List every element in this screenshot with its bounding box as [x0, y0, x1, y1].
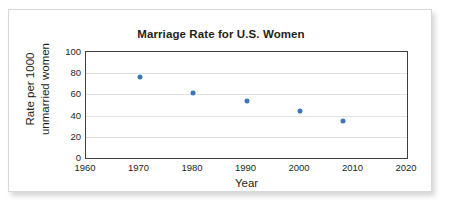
y-axis-title-line-2: unmarried women [38, 43, 53, 135]
figure-frame: Marriage Rate for U.S. Women Rate per 10… [8, 9, 432, 192]
x-tick-label: 1970 [119, 162, 159, 173]
x-axis-tick-labels: 1960197019801990200020102020 [85, 162, 408, 176]
data-point [340, 118, 345, 123]
gridline [86, 116, 407, 117]
x-axis-title: Year [85, 177, 408, 189]
y-tick-label: 80 [55, 67, 81, 78]
y-axis-tick-labels: 020406080100 [53, 51, 81, 159]
x-tick-label: 2010 [333, 162, 373, 173]
data-point [298, 109, 303, 114]
y-tick-label: 20 [55, 130, 81, 141]
chart-title: Marriage Rate for U.S. Women [9, 28, 433, 40]
x-tick-label: 1990 [226, 162, 266, 173]
y-tick-label: 40 [55, 109, 81, 120]
data-point [244, 98, 249, 103]
gridline [86, 94, 407, 95]
x-tick-label: 1960 [65, 162, 105, 173]
y-axis-title: Rate per 1000 unmarried women [21, 14, 55, 164]
data-point [137, 75, 142, 80]
data-point [191, 91, 196, 96]
gridline [86, 73, 407, 74]
y-axis-title-line-1: Rate per 1000 [23, 53, 38, 126]
gridline [86, 137, 407, 138]
x-tick-label: 1980 [172, 162, 212, 173]
x-tick-label: 2000 [279, 162, 319, 173]
plot-area [85, 51, 408, 159]
y-tick-label: 0 [55, 152, 81, 163]
y-tick-label: 100 [55, 46, 81, 57]
y-tick-label: 60 [55, 88, 81, 99]
x-tick-label: 2020 [386, 162, 426, 173]
